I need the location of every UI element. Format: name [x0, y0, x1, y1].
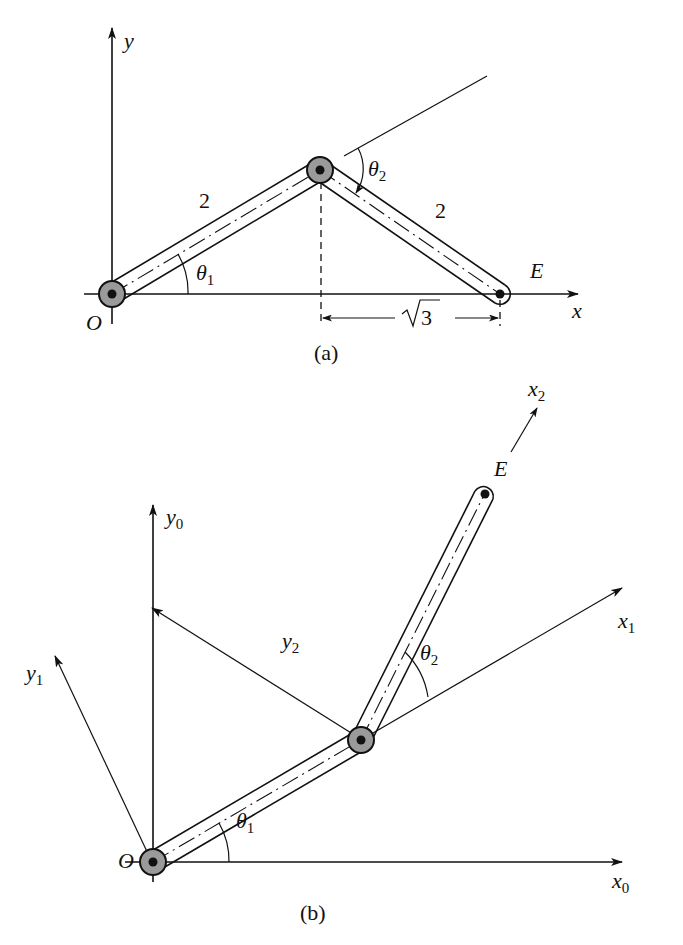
x2-axis-arrow — [511, 408, 537, 452]
theta1-arc — [178, 254, 188, 294]
link1-length-label: 2 — [199, 188, 210, 213]
x0-label: x0 — [611, 868, 629, 896]
theta1-label: θ1 — [196, 260, 214, 288]
link-1-b — [148, 731, 366, 871]
y2-label: y2 — [280, 628, 299, 656]
x-axis-label: x — [571, 298, 582, 323]
link-2-b — [352, 487, 493, 744]
x1-axis — [361, 588, 622, 740]
y1-label: y1 — [24, 660, 43, 688]
y1-axis — [55, 656, 150, 858]
link-1 — [107, 161, 325, 303]
panel-a: y x O E θ1 — [84, 28, 582, 365]
y2-axis — [152, 608, 356, 736]
elbow-joint — [307, 157, 333, 183]
panel-b: y0 x0 O x1 y1 y2 x2 — [24, 376, 635, 925]
end-effector-point-b — [481, 490, 490, 499]
x1-label: x1 — [617, 608, 635, 636]
base-joint — [99, 281, 125, 307]
y-axis-label: y — [122, 28, 134, 53]
link-2 — [315, 161, 510, 304]
end-effector-point — [496, 290, 505, 299]
end-effector-label-b: E — [493, 456, 508, 481]
theta1-label-b: θ1 — [236, 808, 254, 836]
panel-b-caption: (b) — [300, 900, 326, 925]
end-effector-label: E — [529, 258, 544, 283]
theta2-label-b: θ2 — [420, 640, 438, 668]
origin-label: O — [86, 310, 102, 335]
manipulator-figure: y x O E θ1 — [0, 0, 683, 945]
elbow-joint-b — [348, 727, 374, 753]
x2-label: x2 — [527, 376, 545, 404]
theta2-label: θ2 — [368, 156, 386, 184]
origin-label-b: O — [118, 848, 134, 873]
theta1-arc-b — [219, 823, 229, 862]
link1-extension-line — [344, 76, 487, 156]
link2-length-label: 2 — [435, 198, 446, 223]
dimension-label: 3 — [402, 300, 440, 330]
svg-text:3: 3 — [421, 305, 432, 330]
y0-label: y0 — [164, 504, 183, 532]
base-joint-b — [140, 849, 166, 875]
panel-a-caption: (a) — [314, 340, 338, 365]
